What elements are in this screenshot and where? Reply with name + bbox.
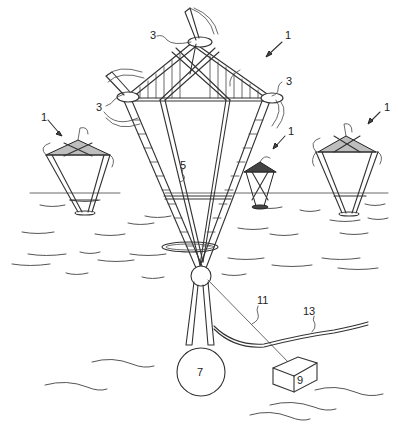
turbine-top (185, 8, 218, 74)
mooring-line (208, 280, 292, 366)
turbine-left (104, 69, 144, 127)
label-platform-right: 1 (384, 102, 390, 113)
float-ring (162, 242, 218, 252)
platform-center-small (244, 157, 276, 209)
label-turbine-left: 3 (96, 102, 102, 113)
label-anchor-block: 9 (297, 375, 303, 386)
anchor-block (273, 357, 317, 392)
leader-lines (48, 36, 380, 333)
leg-rungs (132, 120, 263, 246)
platform-right (312, 124, 381, 216)
platform-left (43, 128, 114, 215)
label-platform-center-small: 1 (288, 126, 294, 137)
label-turbine-top: 3 (150, 30, 156, 41)
label-ballast: 7 (197, 367, 203, 378)
label-tower-truss: 5 (180, 160, 186, 171)
platform-main (104, 8, 368, 396)
label-turbine-right: 3 (286, 76, 292, 87)
patent-figure (0, 0, 398, 429)
label-platform-left: 1 (41, 112, 47, 123)
turbine-right (230, 70, 284, 128)
label-platform-main: 1 (285, 30, 291, 41)
label-mooring-line: 11 (257, 295, 268, 306)
label-power-cable: 13 (303, 306, 315, 317)
